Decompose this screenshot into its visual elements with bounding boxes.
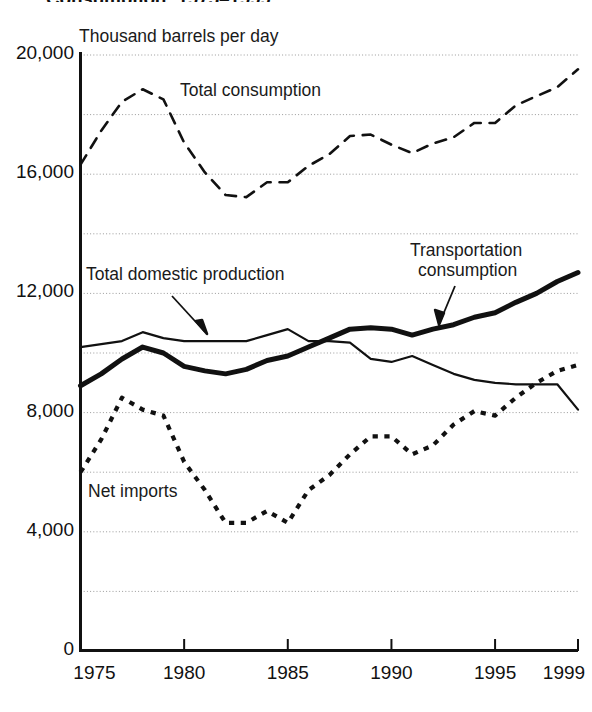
series-label-total-domestic-production: Total domestic production xyxy=(86,264,284,284)
series-label-total-consumption: Total consumption xyxy=(180,80,321,100)
series-label-net-imports: Net imports xyxy=(88,481,177,501)
x-tick-label: 1995 xyxy=(474,662,516,684)
series-line-total-consumption xyxy=(81,69,579,197)
chart-figure: Consumption: 1975–1999 Thousand barrels … xyxy=(0,0,592,712)
x-tick-label: 1985 xyxy=(267,662,309,684)
arrowhead-transportation-consumption xyxy=(435,310,444,325)
data-series xyxy=(81,69,579,523)
series-line-transportation-consumption xyxy=(81,273,579,386)
x-tick-label: 1990 xyxy=(370,662,412,684)
series-label-transportation-consumption-line1: Transportation xyxy=(410,240,522,260)
chart-plot-area xyxy=(0,0,592,712)
x-tick-label: 1975 xyxy=(73,662,115,684)
series-label-transportation-consumption-line2: consumption xyxy=(418,260,517,280)
x-tick-label: 1999 xyxy=(543,662,585,684)
annotation-arrows xyxy=(172,286,455,334)
arrowhead-total-domestic-production xyxy=(196,320,207,334)
x-tick-label: 1980 xyxy=(163,662,205,684)
gridlines xyxy=(81,55,579,591)
series-line-total-domestic-production xyxy=(81,329,579,409)
